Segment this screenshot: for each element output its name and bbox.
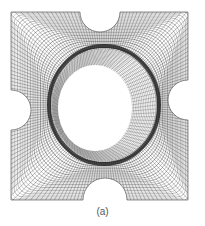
mesh-line (139, 147, 205, 205)
figure-caption: (a) (0, 205, 205, 219)
mesh-line (78, 0, 95, 50)
mesh-line (0, 1, 67, 66)
mesh-line (0, 117, 53, 137)
mesh-line (122, 0, 156, 52)
mesh-line (156, 95, 205, 102)
mesh-line (111, 0, 125, 50)
mesh-line (156, 89, 205, 99)
mesh-line (58, 0, 88, 52)
mesh-line (83, 0, 97, 50)
mesh-figure (0, 0, 205, 205)
mesh-line (0, 109, 52, 116)
mesh-line (156, 109, 205, 116)
mesh-line (117, 159, 141, 205)
mesh-line (0, 0, 68, 65)
mesh-line (0, 95, 52, 102)
mesh-line (0, 64, 54, 90)
mesh-line (53, 0, 87, 52)
mesh-line (0, 100, 52, 103)
mesh-line (0, 107, 52, 110)
tunnel-mesh (52, 49, 156, 161)
mesh-line (0, 113, 53, 126)
mesh-line (156, 107, 205, 110)
mesh-line (0, 120, 54, 146)
mesh-line (106, 161, 109, 205)
mesh-line (155, 84, 205, 97)
mesh-line (0, 74, 53, 94)
mesh-line (99, 161, 102, 205)
mesh-line (0, 111, 52, 121)
mesh-line (156, 100, 205, 103)
